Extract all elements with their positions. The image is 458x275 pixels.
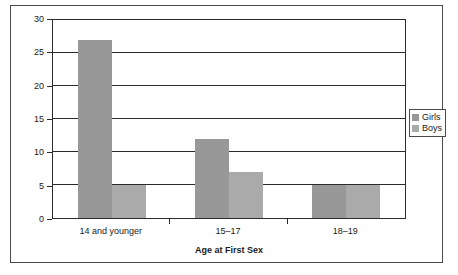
- x-axis-category-label: 18–19: [333, 227, 358, 237]
- y-axis-tick-label: 10: [18, 148, 44, 157]
- y-axis-tick-label: 25: [18, 48, 44, 57]
- legend-label: Boys: [422, 124, 442, 133]
- y-axis-tick-label: 5: [18, 181, 44, 190]
- legend-swatch-icon: [412, 125, 419, 132]
- x-axis-tick-mark: [169, 219, 170, 224]
- chart-legend: GirlsBoys: [409, 109, 446, 137]
- bar-girls-2: [312, 185, 346, 218]
- bar-girls-0: [78, 40, 112, 218]
- bar-boys-1: [229, 172, 263, 218]
- y-axis-tick-label: 15: [18, 115, 44, 124]
- x-axis-category-label: 15–17: [215, 227, 240, 237]
- x-axis-labels: 14 and younger15–1718–19: [52, 227, 406, 241]
- y-axis-tick-label: 0: [18, 215, 44, 224]
- bar-boys-2: [346, 185, 380, 218]
- legend-label: Girls: [422, 113, 441, 122]
- chart-figure-frame: 051015202530 14 and younger15–1718–19 Ag…: [10, 5, 443, 263]
- x-axis-tick-mark: [287, 219, 288, 224]
- y-axis-tick-label: 20: [18, 81, 44, 90]
- legend-item-boys: Boys: [412, 123, 442, 134]
- x-axis-ticks: [52, 219, 406, 225]
- bar-girls-1: [195, 139, 229, 218]
- legend-swatch-icon: [412, 114, 419, 121]
- x-axis-title: Age at First Sex: [52, 245, 406, 255]
- y-axis-tick-label: 30: [18, 15, 44, 24]
- legend-item-girls: Girls: [412, 112, 442, 123]
- plot-area: [52, 19, 406, 219]
- x-axis-category-label: 14 and younger: [79, 227, 142, 237]
- bar-boys-0: [112, 185, 146, 218]
- y-axis: 051015202530: [16, 19, 52, 219]
